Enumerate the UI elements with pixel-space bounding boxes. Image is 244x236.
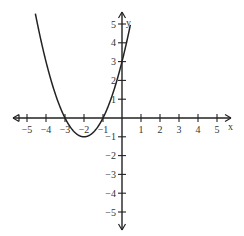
x-tick-label: 3 xyxy=(177,124,182,135)
y-tick-label: −3 xyxy=(105,169,116,180)
y-tick-label: −2 xyxy=(105,150,116,161)
y-tick-label: −5 xyxy=(105,207,116,218)
tick-labels: −5−4−3−2−112345−5−4−3−2−112345xy xyxy=(22,17,233,218)
x-tick-label: −5 xyxy=(22,124,33,135)
x-tick-label: −2 xyxy=(79,124,90,135)
y-tick-label: −4 xyxy=(105,188,116,199)
x-tick-label: −4 xyxy=(41,124,52,135)
x-tick-label: 1 xyxy=(139,124,144,135)
y-tick-label: 5 xyxy=(111,19,116,30)
y-tick-label: 3 xyxy=(111,56,116,67)
x-tick-label: 4 xyxy=(196,124,201,135)
x-tick-label: 5 xyxy=(215,124,220,135)
y-tick-label: −1 xyxy=(105,131,116,142)
coordinate-plane: −5−4−3−2−112345−5−4−3−2−112345xy xyxy=(0,0,244,236)
y-tick-label: 4 xyxy=(111,37,116,48)
x-axis-label: x xyxy=(228,121,233,132)
x-tick-label: 2 xyxy=(158,124,163,135)
